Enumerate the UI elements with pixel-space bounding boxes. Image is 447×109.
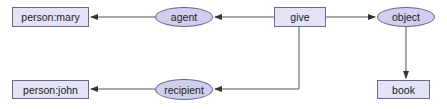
node-object: object (377, 7, 435, 27)
node-book: book (377, 80, 430, 99)
node-agent: agent (155, 7, 213, 27)
node-recipient: recipient (155, 79, 213, 100)
edge-give-recipient (215, 27, 299, 89)
node-person-mary: person:mary (12, 7, 89, 27)
node-person-john: person:john (12, 80, 89, 99)
node-give: give (274, 7, 326, 27)
